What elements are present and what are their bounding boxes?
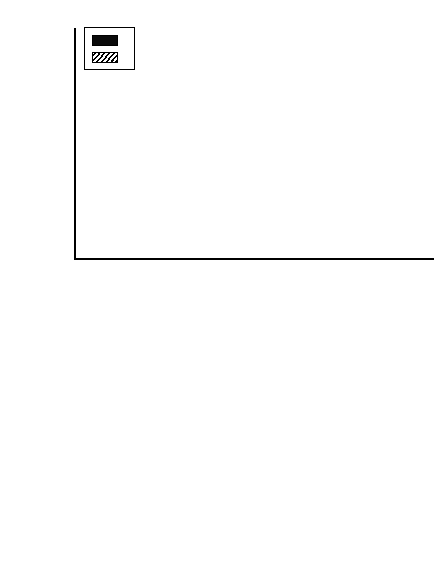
top-legend <box>84 27 135 70</box>
legend-item-ethnic-minorities <box>92 50 125 64</box>
legend-swatch-solid-icon <box>92 35 118 46</box>
line-chart-panel <box>0 290 438 575</box>
legend-swatch-hatch-icon <box>92 52 118 63</box>
chart-page <box>0 0 438 575</box>
top-x-axis-line <box>74 258 434 260</box>
legend-item-ncwp-estimate <box>92 33 125 47</box>
bar-chart-panel <box>0 0 438 290</box>
top-y-axis-line <box>74 28 76 260</box>
